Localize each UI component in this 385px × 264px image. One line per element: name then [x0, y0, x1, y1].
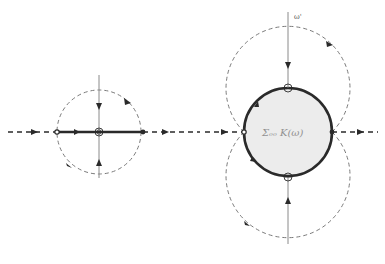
arrow-right-icon	[357, 129, 364, 135]
arrow-right-icon	[162, 129, 169, 135]
region-label: Σₒₒ K(ω)	[261, 127, 303, 138]
left-endpoint-open	[55, 130, 59, 134]
arrow-right-icon	[74, 129, 80, 135]
arrow-right-icon	[221, 129, 228, 135]
circle-arrow-icon	[66, 163, 72, 168]
arrow-down-icon	[285, 62, 291, 69]
diagram-canvas: ω' Σₒₒ K(ω)	[0, 0, 385, 264]
right-panel: ω' Σₒₒ K(ω)	[205, 12, 378, 244]
arrow-up-icon	[96, 159, 102, 166]
left-endpoint-filled	[141, 130, 146, 135]
right-endpoint-filled	[330, 130, 335, 135]
left-panel	[8, 75, 200, 178]
axis-label: ω'	[294, 13, 302, 21]
arrow-up-icon	[285, 197, 291, 204]
arrow-right-icon	[31, 129, 38, 135]
arrow-down-icon	[96, 103, 102, 110]
right-endpoint-open	[242, 130, 246, 134]
